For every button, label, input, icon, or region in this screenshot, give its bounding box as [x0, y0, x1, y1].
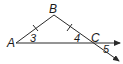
- angle-label-3: 3: [30, 32, 37, 44]
- point-label-c: C: [91, 31, 100, 45]
- point-label-a: A: [6, 36, 15, 50]
- diagram-canvas: A B C 3 4 5: [0, 0, 123, 64]
- triangle-exterior-angle-diagram: A B C 3 4 5: [0, 0, 123, 64]
- angle-label-4: 4: [74, 32, 80, 44]
- point-label-b: B: [49, 2, 57, 16]
- ray-bc: [54, 15, 119, 61]
- angle-label-5: 5: [103, 43, 110, 55]
